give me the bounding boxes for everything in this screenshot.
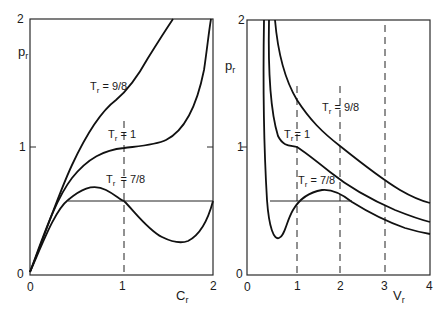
- right-ytick-label-2: 2: [238, 13, 245, 27]
- left-label-tr-9-8: Tr= 9/8: [90, 80, 127, 95]
- right-chart: 2 1 0 0 1 2 3 4 pr Vr Tr= 9/8 Tr= 1 Tr= …: [225, 13, 433, 305]
- left-xtick-label-0: 0: [27, 280, 34, 294]
- left-ylabel: pr: [18, 44, 28, 61]
- left-ytick-label-1: 1: [19, 140, 26, 154]
- right-ytick-label-1: 1: [237, 140, 244, 154]
- right-ytick-label-0: 0: [236, 267, 243, 281]
- right-label-tr-7-8: Tr= 7/8: [298, 174, 335, 189]
- right-xtick-label-1: 1: [294, 279, 301, 293]
- left-ytick-label-0: 0: [17, 267, 24, 281]
- left-label-tr-7-8: Tr= 7/8: [106, 173, 145, 188]
- left-chart: 2 1 0 0 1 2 pr Cr Tr= 9/8 Tr= 1 Tr= 7/8: [17, 12, 217, 305]
- right-curve-tr-1: [269, 20, 430, 222]
- right-ylabel: pr: [225, 58, 235, 75]
- right-xtick-label-2: 2: [337, 279, 344, 293]
- left-xlabel: Cr: [176, 288, 188, 305]
- left-label-tr-1: Tr= 1: [108, 128, 136, 143]
- left-curve-tr-9-8: [30, 19, 173, 272]
- left-xtick-label-1: 1: [119, 279, 126, 293]
- figure: 2 1 0 0 1 2 pr Cr Tr= 9/8 Tr= 1 Tr= 7/8 …: [0, 0, 446, 312]
- right-xtick-label-3: 3: [381, 279, 388, 293]
- left-ytick-label-2: 2: [17, 12, 24, 26]
- left-xtick-label-2: 2: [210, 279, 217, 293]
- left-curve-tr-1: [30, 19, 211, 272]
- right-xtick-label-4: 4: [426, 279, 433, 293]
- right-xlabel: Vr: [393, 288, 405, 305]
- right-xtick-label-0: 0: [244, 280, 251, 294]
- left-plot-frame: [30, 19, 213, 275]
- right-label-tr-9-8: Tr= 9/8: [322, 101, 359, 116]
